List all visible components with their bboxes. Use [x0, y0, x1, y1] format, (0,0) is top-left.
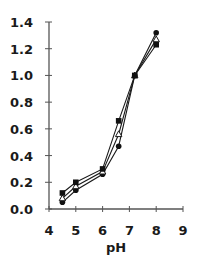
- square-marker: [100, 166, 106, 172]
- x-tick-label: 5: [71, 223, 80, 238]
- square-marker: [153, 42, 159, 48]
- y-tick-label: 0.2: [10, 175, 33, 190]
- ph-line-chart: 4567890.00.20.40.60.81.01.21.4 pH: [0, 0, 197, 270]
- triangle-marker: [115, 131, 121, 137]
- x-tick-label: 4: [44, 223, 53, 238]
- x-tick-label: 9: [178, 223, 187, 238]
- square-marker: [73, 179, 79, 185]
- y-tick-label: 0.0: [10, 202, 33, 217]
- filled-square-line: [62, 45, 156, 193]
- x-tick-label: 8: [152, 223, 161, 238]
- y-tick-label: 1.2: [10, 42, 33, 57]
- axes: 4567890.00.20.40.60.81.01.21.4: [10, 15, 188, 238]
- x-tick-label: 6: [98, 223, 107, 238]
- x-tick-label: 7: [125, 223, 134, 238]
- square-marker: [60, 190, 66, 196]
- y-tick-label: 1.0: [10, 68, 33, 83]
- y-tick-label: 1.4: [10, 15, 33, 30]
- square-marker: [132, 73, 138, 79]
- open-triangle-line: [62, 39, 156, 198]
- y-tick-label: 0.6: [10, 122, 33, 137]
- series-group: [59, 30, 159, 205]
- y-tick-label: 0.4: [10, 149, 33, 164]
- filled-circle-line: [62, 33, 156, 203]
- x-axis-label: pH: [106, 240, 126, 255]
- circle-marker: [116, 143, 122, 149]
- y-tick-label: 0.8: [10, 95, 33, 110]
- square-marker: [116, 118, 122, 124]
- circle-marker: [153, 30, 159, 36]
